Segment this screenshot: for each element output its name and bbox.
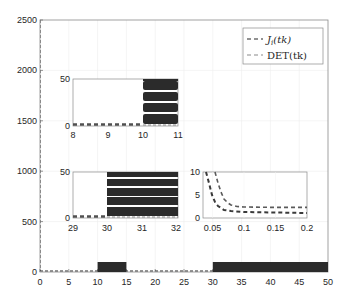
svg-text:2000: 2000 xyxy=(17,65,37,75)
svg-text:5: 5 xyxy=(66,277,71,287)
svg-text:0: 0 xyxy=(65,213,70,223)
legend-det-label: DET(tk) xyxy=(267,50,307,61)
event-band-10-15 xyxy=(98,262,127,272)
svg-text:1000: 1000 xyxy=(17,166,37,176)
svg-text:0: 0 xyxy=(195,213,200,223)
svg-text:40: 40 xyxy=(265,277,275,287)
svg-text:30: 30 xyxy=(102,223,112,233)
svg-text:9: 9 xyxy=(105,130,110,140)
svg-text:30: 30 xyxy=(208,277,218,287)
svg-text:20: 20 xyxy=(150,277,160,287)
svg-text:25: 25 xyxy=(179,277,189,287)
svg-text:11: 11 xyxy=(173,130,182,140)
svg-text:0.15: 0.15 xyxy=(267,223,285,233)
svg-text:0.1: 0.1 xyxy=(238,223,251,233)
svg-text:0: 0 xyxy=(65,121,70,131)
svg-text:1500: 1500 xyxy=(17,116,37,126)
svg-text:35: 35 xyxy=(237,277,247,287)
inset-3: 0.05 0.1 0.15 0.2 0 5 10 xyxy=(190,167,313,233)
chart-figure: 0 5 10 15 20 25 30 35 40 45 50 0 500 100… xyxy=(0,0,349,306)
svg-text:0: 0 xyxy=(32,267,37,277)
legend: Ji(tk) DET(tk) xyxy=(243,28,323,64)
main-x-tick-labels: 0 5 10 15 20 25 30 35 40 45 50 xyxy=(37,277,333,287)
event-band-30-50 xyxy=(213,262,328,272)
svg-text:0.05: 0.05 xyxy=(204,223,222,233)
svg-text:32: 32 xyxy=(171,223,181,233)
svg-text:0: 0 xyxy=(37,277,42,287)
svg-text:50: 50 xyxy=(60,167,70,177)
svg-text:10: 10 xyxy=(138,130,148,140)
svg-text:5: 5 xyxy=(195,190,200,200)
inset-2: 29 30 31 32 0 50 xyxy=(60,167,181,233)
svg-text:50: 50 xyxy=(60,74,70,84)
svg-text:50: 50 xyxy=(323,277,333,287)
svg-text:2500: 2500 xyxy=(17,15,37,25)
svg-text:0.2: 0.2 xyxy=(301,223,314,233)
svg-text:10: 10 xyxy=(190,167,200,177)
svg-text:31: 31 xyxy=(137,223,147,233)
svg-text:500: 500 xyxy=(22,217,37,227)
svg-text:8: 8 xyxy=(70,130,75,140)
svg-text:10: 10 xyxy=(93,277,103,287)
svg-text:15: 15 xyxy=(121,277,131,287)
main-y-tick-labels: 0 500 1000 1500 2000 2500 xyxy=(17,15,37,277)
svg-text:29: 29 xyxy=(68,223,78,233)
inset-1: 8 9 10 11 0 50 xyxy=(60,74,183,140)
svg-text:45: 45 xyxy=(294,277,304,287)
